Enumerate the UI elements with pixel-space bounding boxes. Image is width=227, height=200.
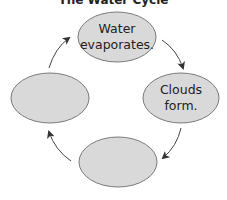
arrow-right-to-bottom (163, 128, 181, 158)
node-bottom-ellipse (79, 137, 157, 187)
node-right-line-1: Clouds (143, 82, 219, 98)
node-right-line-2: form. (143, 98, 219, 114)
node-left-ellipse (11, 73, 89, 123)
node-top-line-1: Water (78, 21, 156, 37)
node-right-label: Clouds form. (143, 82, 219, 114)
node-top-label: Water evaporates. (78, 21, 156, 53)
water-cycle-diagram: The Water Cycle Water evaporates. Clouds… (0, 0, 227, 200)
arrow-bottom-to-left (49, 132, 71, 161)
node-top-line-2: evaporates. (78, 37, 156, 53)
arrow-left-to-top (49, 38, 69, 68)
arrow-top-to-right (162, 40, 183, 68)
